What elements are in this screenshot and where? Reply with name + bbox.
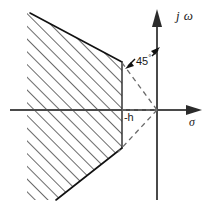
- angle-value: 45: [136, 55, 148, 67]
- angle-leader-right-arrow: [151, 47, 160, 56]
- hatched-region: [25, 10, 125, 202]
- real-axis-arrowhead: [186, 105, 202, 115]
- imaginary-axis-arrowhead: [152, 9, 162, 27]
- angle-leader-left-arrow: [125, 59, 135, 69]
- upper-45-degree-dashed-ray: [120, 60, 157, 110]
- degree-symbol: °: [148, 53, 151, 62]
- minus-h-label: -h: [124, 112, 133, 123]
- real-axis-label: σ: [189, 116, 195, 128]
- imaginary-axis-label: j ω: [176, 9, 194, 22]
- hatch-fill: [25, 10, 125, 202]
- s-plane-figure: [0, 0, 211, 209]
- angle-label: 45°: [136, 54, 151, 67]
- figure-container: j ω σ -h 45°: [0, 0, 211, 209]
